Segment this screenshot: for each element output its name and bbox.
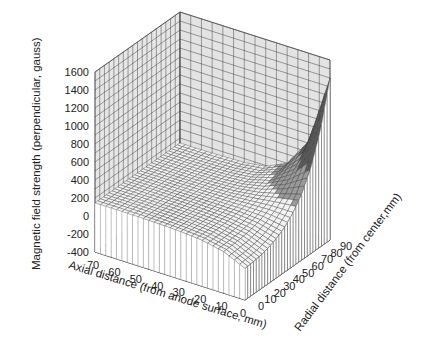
z-tick-label: 0 bbox=[83, 210, 89, 222]
z-tick-label: 400 bbox=[71, 174, 89, 186]
z-tick-label: -400 bbox=[67, 246, 89, 258]
z-tick-label: 1400 bbox=[65, 84, 89, 96]
z-tick-label: 200 bbox=[71, 192, 89, 204]
z-axis-label: Magnetic field strength (perpendicular, … bbox=[30, 37, 42, 270]
z-tick-label: 1600 bbox=[65, 66, 89, 78]
z-tick-label: 1000 bbox=[65, 120, 89, 132]
z-tick-label: 1200 bbox=[65, 102, 89, 114]
z-tick-label: 800 bbox=[71, 138, 89, 150]
z-axis-ticks: 16001400120010008006004002000-200-400 bbox=[65, 66, 89, 258]
z-tick-label: -200 bbox=[67, 228, 89, 240]
surface-plot: 16001400120010008006004002000-200-400 70… bbox=[0, 0, 421, 349]
y-tick-label: 0 bbox=[258, 300, 264, 312]
z-tick-label: 600 bbox=[71, 156, 89, 168]
